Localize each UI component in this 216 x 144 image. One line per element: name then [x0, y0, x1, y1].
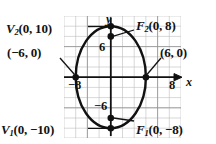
- point-focus-upper: [108, 33, 115, 40]
- callout-vertex-lower-coords: (0, −10): [14, 122, 54, 137]
- callout-focus-upper: F2(0, 8): [136, 19, 176, 34]
- x-axis-label: x: [186, 76, 192, 88]
- y-tick-negative-6: −6: [94, 100, 107, 113]
- callout-covertex-right-coords: (6, 0): [160, 45, 187, 60]
- callout-covertex-right: (6, 0): [160, 46, 187, 59]
- callout-vertex-lower: V1(0, −10): [1, 123, 54, 138]
- callout-vertex-upper: V2(0, 10): [6, 22, 52, 37]
- point-vertex-lower: [108, 125, 115, 132]
- callout-focus-lower-coords: (0, −8): [149, 122, 183, 137]
- callout-covertex-left-coords: (−6, 0): [7, 45, 41, 60]
- callout-focus-upper-coords: (0, 8): [149, 18, 176, 33]
- callout-covertex-left: (−6, 0): [7, 46, 41, 59]
- x-tick-negative-8: −8: [68, 79, 81, 92]
- x-tick-positive-8: 8: [169, 79, 175, 92]
- callout-vertex-upper-coords: (0, 10): [19, 21, 52, 36]
- callout-focus-lower: F1(0, −8): [136, 123, 183, 138]
- y-tick-positive-6: 6: [99, 41, 105, 54]
- point-focus-lower: [108, 115, 115, 122]
- y-axis-label: y: [106, 13, 111, 25]
- point-covertex-right: [143, 74, 150, 81]
